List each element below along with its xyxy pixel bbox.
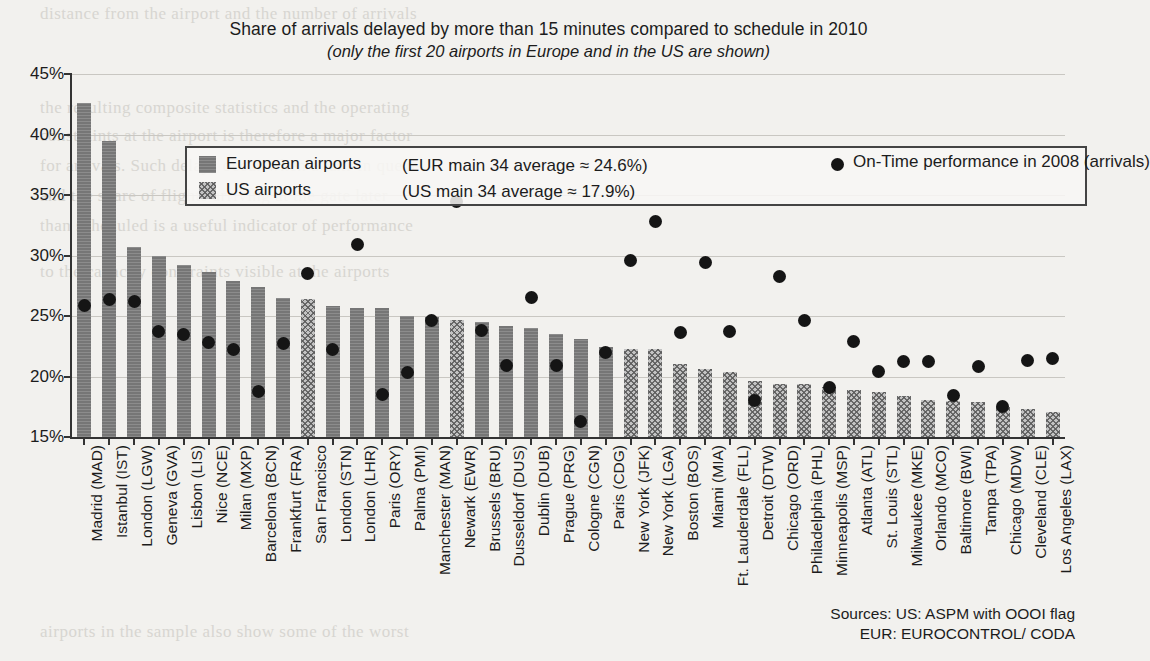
sources-note: Sources: US: ASPM with OOOI flag EUR: EU…: [830, 604, 1075, 644]
legend-label-us: US airports: [226, 180, 311, 200]
x-axis-tick: [630, 437, 632, 445]
x-axis-tick-label: Boston (BOS): [684, 445, 702, 541]
x-axis-tick: [878, 437, 880, 445]
x-axis-tick-label: Frankfurt (FRA): [287, 445, 305, 553]
x-axis-tick-label: Minneapolis (MSP): [833, 445, 851, 576]
x-axis-tick: [977, 437, 979, 445]
bar: [1046, 412, 1060, 437]
ontime-marker: [550, 359, 563, 372]
legend-label-european: European airports: [226, 154, 361, 174]
bar: [152, 256, 166, 438]
x-axis-tick: [853, 437, 855, 445]
ontime-marker: [351, 238, 364, 251]
ontime-marker: [723, 325, 736, 338]
x-axis-tick-label: Manchester (MAN): [436, 445, 454, 575]
ontime-marker: [376, 388, 389, 401]
x-axis-tick-label: Dusseldorf (DUS): [510, 445, 528, 566]
ontime-marker: [972, 360, 985, 373]
bar: [524, 328, 538, 437]
y-axis-tick: [64, 73, 72, 75]
bar: [921, 400, 935, 438]
ontime-marker: [500, 359, 513, 372]
bar: [127, 247, 141, 437]
chart-legend: European airports US airports (EUR main …: [185, 146, 1087, 206]
bar: [326, 306, 340, 437]
x-axis-tick: [332, 437, 334, 445]
x-axis-tick-label: Ft. Lauderdale (FLL): [734, 445, 752, 586]
ontime-marker: [922, 355, 935, 368]
x-axis-tick-label: Baltimore (BWI): [957, 445, 975, 554]
ontime-marker: [823, 381, 836, 394]
x-axis-tick-label: Paris (ORY): [386, 445, 404, 528]
legend-dot-marker-icon: [831, 158, 844, 171]
x-axis-tick: [605, 437, 607, 445]
bar: [226, 281, 240, 437]
bar: [648, 349, 662, 437]
x-axis-tick: [704, 437, 706, 445]
ontime-marker: [798, 314, 811, 327]
y-axis-tick: [64, 376, 72, 378]
x-axis-tick-label: Istanbul (IST): [113, 445, 131, 538]
sources-line-1: Sources: US: ASPM with OOOI flag: [830, 604, 1075, 624]
ontime-marker: [78, 299, 91, 312]
x-axis-tick: [1052, 437, 1054, 445]
x-axis-tick: [108, 437, 110, 445]
x-axis-tick-label: Chicago (ORD): [784, 445, 802, 551]
bar: [971, 402, 985, 437]
x-axis-tick-label: Miami (MIA): [709, 445, 727, 529]
y-axis-tick: [64, 315, 72, 317]
bar: [897, 396, 911, 437]
ontime-marker: [277, 337, 290, 350]
x-axis-tick: [952, 437, 954, 445]
x-axis-tick-label: Milan (MXP): [237, 445, 255, 530]
bar: [624, 349, 638, 437]
x-axis-tick-label: Madrid (MAD): [88, 445, 106, 541]
legend-swatch-us-icon: [199, 182, 216, 199]
x-axis-tick: [903, 437, 905, 445]
x-axis-tick: [208, 437, 210, 445]
bar: [872, 392, 886, 437]
x-axis-tick-label: Los Angeles (LAX): [1057, 445, 1075, 573]
x-axis-tick: [257, 437, 259, 445]
x-axis-tick-label: Brussels (BRU): [486, 445, 504, 552]
x-axis-tick: [1027, 437, 1029, 445]
bar: [797, 384, 811, 437]
x-axis-tick-label: Milwaukee (MKE): [908, 445, 926, 566]
plot-area: European airports US airports (EUR main …: [70, 74, 1065, 439]
x-axis-tick-label: St. Louis (STL): [883, 445, 901, 548]
x-axis-tick-label: Dublin (DUB): [535, 445, 553, 536]
x-axis-tick: [729, 437, 731, 445]
x-axis-tick: [158, 437, 160, 445]
y-axis-tick-label: 35%: [18, 185, 64, 205]
ontime-marker: [301, 267, 314, 280]
x-axis-tick-label: Atlanta (ATL): [858, 445, 876, 535]
ontime-marker: [599, 346, 612, 359]
x-axis-tick-label: Detroit (DTW): [759, 445, 777, 541]
x-axis-tick: [754, 437, 756, 445]
x-axis-tick-label: Nice (NCE): [213, 445, 231, 523]
bar: [77, 103, 91, 437]
ontime-marker: [1021, 354, 1034, 367]
x-axis-tick: [83, 437, 85, 445]
x-axis-tick: [927, 437, 929, 445]
x-axis-tick-label: Barcelona (BCN): [262, 445, 280, 562]
x-axis-tick-label: London (STN): [337, 445, 355, 542]
x-axis-tick-label: Lisbon (LIS): [188, 445, 206, 529]
y-axis-tick-label: 25%: [18, 306, 64, 326]
bar: [102, 141, 116, 437]
x-axis-tick-label: Newark (EWR): [461, 445, 479, 548]
x-axis-tick: [779, 437, 781, 445]
x-axis-tick: [406, 437, 408, 445]
bar: [549, 334, 563, 437]
y-axis-tick: [64, 134, 72, 136]
x-axis-tick: [654, 437, 656, 445]
bar: [301, 299, 315, 437]
ontime-marker: [773, 270, 786, 283]
y-axis-tick-label: 15%: [18, 427, 64, 447]
x-axis-tick: [828, 437, 830, 445]
legend-row-us: US airports: [199, 177, 311, 203]
x-axis-tick: [580, 437, 582, 445]
ontime-marker: [624, 254, 637, 267]
x-axis-tick: [530, 437, 532, 445]
x-axis-tick: [282, 437, 284, 445]
